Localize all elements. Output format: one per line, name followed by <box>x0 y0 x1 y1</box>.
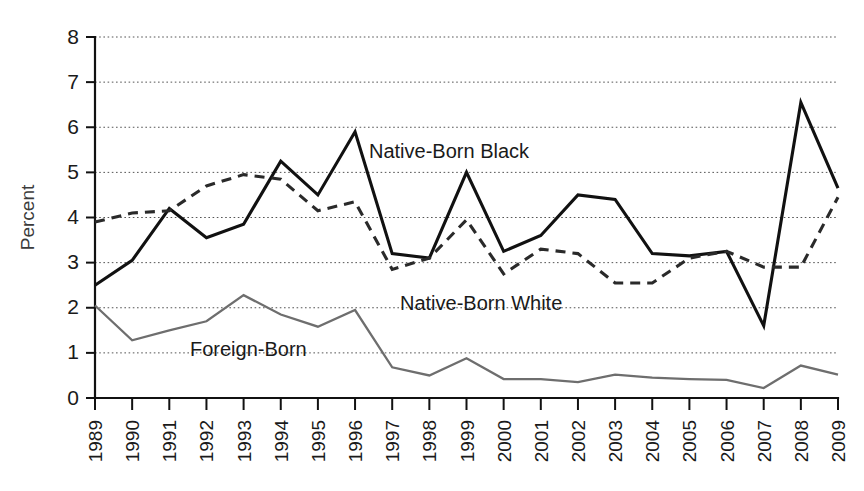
x-tick-label-2003: 2003 <box>605 420 626 462</box>
series-annotation-native-born-white: Native-Born White <box>400 292 562 314</box>
chart-container: 012345678 198919901991199219931994199519… <box>0 0 864 491</box>
y-tick-label-6: 6 <box>67 115 79 138</box>
series-line-native-born-white <box>95 175 838 283</box>
y-tick-label-2: 2 <box>67 295 79 318</box>
x-tick-label-1998: 1998 <box>419 420 440 462</box>
x-tick-label-1991: 1991 <box>159 420 180 462</box>
x-tick-label-1992: 1992 <box>196 420 217 462</box>
series-annotation-native-born-black: Native-Born Black <box>369 140 530 162</box>
x-tick-label-2000: 2000 <box>494 420 515 462</box>
y-axis-label: Percent <box>17 184 38 250</box>
line-chart: 012345678 198919901991199219931994199519… <box>0 0 864 491</box>
x-tick-label-1995: 1995 <box>308 420 329 462</box>
x-tick-label-1996: 1996 <box>345 420 366 462</box>
y-tick-label-8: 8 <box>67 25 79 48</box>
x-tick-label-2005: 2005 <box>679 420 700 462</box>
y-axis-title: Percent <box>17 184 38 250</box>
x-tick-label-1993: 1993 <box>234 420 255 462</box>
x-tick-label-2007: 2007 <box>754 420 775 462</box>
x-tick-label-1990: 1990 <box>122 420 143 462</box>
y-tick-labels: 012345678 <box>67 25 79 409</box>
x-tick-label-1999: 1999 <box>457 420 478 462</box>
y-tick-label-3: 3 <box>67 250 79 273</box>
y-axis <box>86 37 95 398</box>
x-tick-label-2009: 2009 <box>828 420 849 462</box>
x-tick-label-2008: 2008 <box>791 420 812 462</box>
y-tick-label-4: 4 <box>67 205 79 228</box>
x-tick-label-2002: 2002 <box>568 420 589 462</box>
x-tick-labels: 1989199019911992199319941995199619971998… <box>85 420 849 463</box>
x-tick-label-2001: 2001 <box>531 420 552 462</box>
x-tick-label-2004: 2004 <box>642 420 663 463</box>
x-tick-label-1994: 1994 <box>271 420 292 463</box>
series-annotation-foreign-born: Foreign-Born <box>190 338 307 360</box>
x-tick-label-2006: 2006 <box>717 420 738 462</box>
x-axis <box>95 398 838 410</box>
y-tick-label-7: 7 <box>67 70 79 93</box>
y-tick-label-1: 1 <box>67 340 79 363</box>
y-tick-label-0: 0 <box>67 386 79 409</box>
y-tick-label-5: 5 <box>67 160 79 183</box>
x-tick-label-1989: 1989 <box>85 420 106 462</box>
x-tick-label-1997: 1997 <box>382 420 403 462</box>
